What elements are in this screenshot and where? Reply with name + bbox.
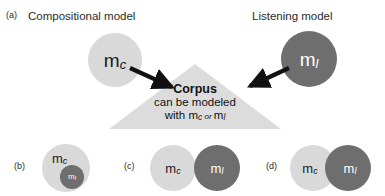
panel-d-left-symbol: mc xyxy=(302,162,317,175)
panel-d-right-symbol: ml xyxy=(344,162,357,175)
panel-c-right-circle: ml xyxy=(194,145,240,191)
panel-c-left-circle: mc xyxy=(150,145,196,191)
panel-c-right-symbol: ml xyxy=(211,162,224,175)
panel-c-left-symbol: mc xyxy=(165,162,180,175)
listening-model-circle: ml xyxy=(281,31,337,87)
panel-b-inner-symbol: ml xyxy=(68,173,76,181)
compositional-model-symbol: mc xyxy=(104,51,126,70)
panel-b-outer-symbol: mc xyxy=(52,149,67,167)
panel-label-b: (b) xyxy=(14,161,25,171)
listening-model-symbol: ml xyxy=(300,50,319,69)
compositional-model-circle: mc xyxy=(88,33,142,87)
panel-label-c: (c) xyxy=(124,161,135,171)
panel-d-right-circle: ml xyxy=(325,145,371,191)
panel-b-inner-circle: ml xyxy=(60,165,84,189)
corpus-text-block: Corpus can be modeled with mc or ml xyxy=(110,83,280,123)
corpus-subtitle: can be modeled xyxy=(110,96,280,109)
panel-label-d: (d) xyxy=(266,161,277,171)
figure-canvas: (a) Compositional model Listening model … xyxy=(0,0,385,196)
corpus-title: Corpus xyxy=(110,83,280,96)
corpus-models-line: with mc or ml xyxy=(110,109,280,122)
